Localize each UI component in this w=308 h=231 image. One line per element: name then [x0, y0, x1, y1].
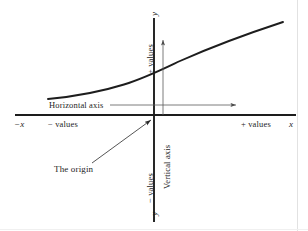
origin-pointer-arrow [92, 120, 151, 163]
axis-label-y-bottom: −y [150, 212, 159, 222]
plotted-curve [48, 22, 283, 99]
origin-label: The origin [54, 165, 93, 174]
vertical-axis-label: Vertical axis [163, 145, 172, 189]
figure-bottom-border [0, 229, 308, 230]
horizontal-negative-values-label: − values [48, 120, 78, 129]
axis-label-x-right: x [289, 120, 293, 129]
horizontal-axis-label: Horizontal axis [49, 101, 103, 110]
axis-label-y-top: y [150, 12, 159, 16]
vertical-negative-values-label: − values [146, 173, 155, 203]
figure-right-border [297, 0, 298, 231]
horizontal-positive-values-label: + values [241, 120, 271, 129]
coordinate-axes-figure: y −y x −x + values − values Vertical axi… [0, 0, 308, 231]
axis-label-x-left: −x [14, 120, 24, 129]
vertical-positive-values-label: + values [146, 44, 155, 74]
